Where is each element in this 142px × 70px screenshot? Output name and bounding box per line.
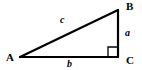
vertex-label-b: B (126, 1, 133, 12)
right-angle-marker-icon (108, 47, 118, 57)
side-c-hypotenuse-line (20, 10, 118, 57)
side-label-c: c (60, 15, 64, 25)
right-triangle-diagram: A B C a b c (0, 0, 142, 70)
side-label-b: b (67, 59, 72, 69)
vertex-label-a: A (6, 52, 14, 63)
vertex-label-c: C (126, 55, 134, 66)
side-label-a: a (125, 28, 130, 38)
